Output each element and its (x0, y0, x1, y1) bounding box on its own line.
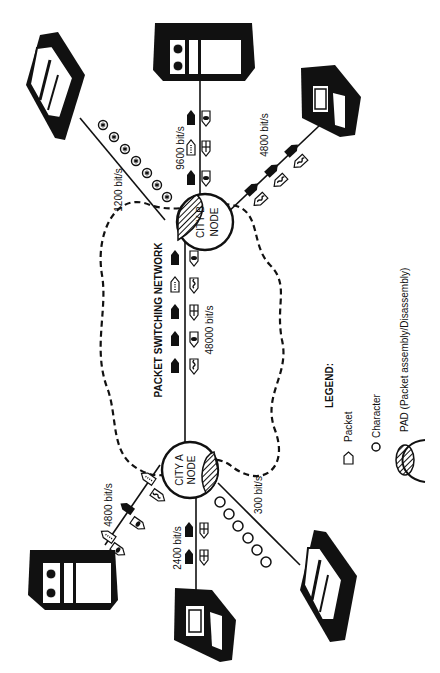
character-legend-icon (372, 443, 380, 451)
legend-packet-label: Packet (343, 411, 354, 442)
svg-text:NODE: NODE (209, 207, 220, 236)
pad-legend-icon (396, 440, 425, 482)
city-a-node: CITY A NODE (162, 442, 218, 498)
b-host-speed-label: 9600 bit/s (175, 126, 186, 169)
svg-text:CITY B: CITY B (195, 206, 206, 238)
svg-text:NODE: NODE (186, 455, 197, 484)
b-printer-speed-label: 1200 bit/s (113, 168, 124, 211)
legend-pad-label: PAD (Packet assembly/Disassembly) (399, 268, 410, 432)
a-printer-icon (300, 530, 357, 642)
trunk-speed-label: 48000 bit/s (204, 306, 215, 355)
packet-legend-icon (344, 452, 353, 464)
b-terminal-packets (244, 142, 308, 209)
b-terminal-speed-label: 4800 bit/s (259, 113, 270, 156)
a-host-speed-label: 4800 bit/s (103, 483, 114, 526)
legend-heading: LEGEND: (324, 363, 335, 408)
a-printer-speed-label: 300 bit/s (253, 476, 264, 514)
packet-switching-diagram: CITY B NODE CITY A NODE PACKET SWITCHING… (0, 0, 440, 673)
b-terminal-icon (301, 65, 361, 137)
svg-text:CITY A: CITY A (174, 454, 185, 486)
a-terminal-icon (174, 588, 236, 662)
b-host-packets (187, 110, 210, 186)
a-terminal-speed-label: 2400 bit/s (172, 526, 183, 569)
network-title: PACKET SWITCHING NETWORK (153, 242, 164, 398)
city-b-node: CITY B NODE (177, 194, 233, 250)
b-host-computer-icon (153, 23, 255, 81)
b-printer-characters (99, 121, 172, 202)
legend: LEGEND: Packet Character PAD (Packet ass… (324, 268, 425, 482)
legend-character-label: Character (371, 393, 382, 438)
b-printer-icon (26, 32, 85, 140)
a-host-computer-icon (28, 550, 118, 610)
